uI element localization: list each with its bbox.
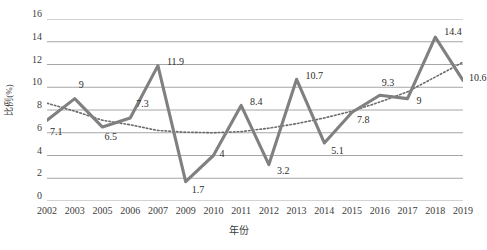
plot-area: 7.196.57.311.91.748.43.210.75.17.89.3914… — [47, 19, 463, 201]
y-axis-tick-label: 16 — [18, 9, 42, 19]
data-point-label: 7.3 — [136, 99, 149, 109]
x-axis-tick-label: 2019 — [443, 205, 483, 217]
data-point-label: 5.1 — [331, 146, 344, 156]
data-point-label: 10.7 — [306, 71, 324, 81]
data-point-label: 14.4 — [444, 27, 462, 37]
y-axis-tick-label: 6 — [18, 123, 42, 133]
data-point-label: 7.8 — [357, 115, 370, 125]
x-axis-title: 年份 — [0, 225, 477, 237]
data-point-label: 1.7 — [192, 185, 205, 195]
data-line-series — [47, 37, 463, 181]
data-point-label: 11.9 — [167, 57, 184, 67]
y-axis-tick-label: 0 — [18, 191, 42, 201]
data-point-label: 7.1 — [50, 127, 63, 137]
data-point-label: 9.3 — [382, 78, 395, 88]
y-axis-tick-label: 8 — [18, 100, 42, 110]
gridlines — [47, 19, 463, 201]
x-axis-tick-labels: 2002200320052006200720092010201120122013… — [47, 205, 463, 219]
y-axis-tick-label: 12 — [18, 55, 42, 65]
data-point-label: 9 — [79, 80, 84, 90]
y-axis-tick-label: 10 — [18, 77, 42, 87]
data-point-label: 10.6 — [469, 73, 487, 83]
data-point-label: 4 — [219, 149, 224, 159]
data-point-label: 3.2 — [277, 166, 290, 176]
y-axis-tick-label: 4 — [18, 146, 42, 156]
y-axis-tick-label: 14 — [18, 32, 42, 42]
data-point-label: 6.5 — [105, 132, 118, 142]
data-point-label: 9 — [417, 96, 422, 106]
y-axis-tick-labels: 0246810121416 — [18, 14, 42, 201]
data-point-label: 8.4 — [250, 97, 263, 107]
plot-svg — [47, 19, 463, 201]
y-axis-tick-label: 2 — [18, 168, 42, 178]
y-axis-title: 比例(%) — [4, 70, 14, 130]
